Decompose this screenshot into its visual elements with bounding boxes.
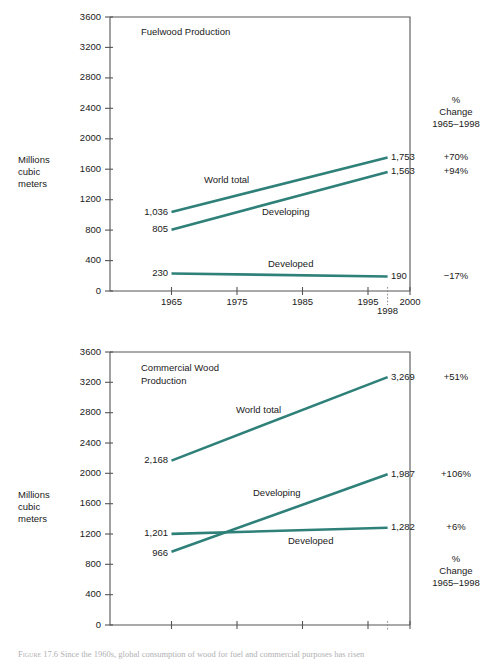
series-line-developed bbox=[172, 274, 388, 277]
chart-panel-commercial-wood: 0 400 800 1200 1600 2000 2400 2800 3200 … bbox=[0, 330, 498, 630]
y-tick-label: 2800 bbox=[80, 71, 101, 82]
y-tick-label: 1600 bbox=[80, 497, 101, 508]
value-label-end-developing: 1,563 bbox=[391, 165, 415, 176]
y-axis-ticks bbox=[105, 17, 113, 291]
change-value-world-total: +51% bbox=[444, 371, 469, 382]
x-tick-label: 1965 bbox=[161, 296, 182, 307]
change-header-line: Change bbox=[439, 106, 472, 117]
series-label-developed: Developed bbox=[268, 258, 313, 269]
y-axis-title-line: meters bbox=[18, 178, 47, 189]
y-tick-label: 1600 bbox=[80, 163, 101, 174]
x-tick-label: 1995 bbox=[357, 296, 378, 307]
change-column-fuelwood: % Change 1965–1998 +70% +94% −17% bbox=[432, 94, 480, 281]
series-inline-labels: World total Developing Developed bbox=[204, 174, 313, 269]
y-tick-label: 400 bbox=[85, 254, 101, 265]
y-tick-label: 2000 bbox=[80, 132, 101, 143]
y-tick-label: 400 bbox=[85, 588, 101, 599]
value-label-end-world-total: 3,269 bbox=[391, 371, 415, 382]
y-tick-label: 3600 bbox=[80, 11, 101, 22]
value-label-end-developed: 190 bbox=[391, 270, 407, 281]
change-header-line: Change bbox=[439, 565, 472, 576]
y-tick-label: 0 bbox=[96, 285, 101, 296]
series-line-developed bbox=[172, 528, 388, 534]
y-tick-label: 3200 bbox=[80, 41, 101, 52]
series-label-world-total: World total bbox=[236, 404, 281, 415]
figure-caption-text: Since the 1960s, global consumption of w… bbox=[60, 650, 364, 659]
change-value-developed: +6% bbox=[446, 521, 466, 532]
change-value-world-total: +70% bbox=[444, 151, 469, 162]
value-label-end-developed: 1,282 bbox=[391, 521, 415, 532]
plot-title-commercial-wood-line2: Production bbox=[141, 375, 186, 386]
y-tick-label: 2400 bbox=[80, 437, 101, 448]
y-axis-title-line: cubic bbox=[18, 501, 40, 512]
change-value-developing: +106% bbox=[441, 468, 471, 479]
fuelwood-chart-svg: 0 400 800 1200 1600 2000 2400 2800 3200 … bbox=[0, 0, 498, 330]
figure-root: 0 400 800 1200 1600 2000 2400 2800 3200 … bbox=[0, 0, 498, 664]
y-tick-label: 1200 bbox=[80, 193, 101, 204]
y-tick-label: 0 bbox=[96, 619, 101, 630]
figure-caption-number: Figure 17.6 bbox=[18, 650, 58, 659]
value-label-end-developing: 1,987 bbox=[391, 468, 415, 479]
x-tick-label: 2000 bbox=[399, 296, 420, 307]
y-axis-title-line: Millions bbox=[18, 154, 50, 165]
commercial-wood-chart-svg: 0 400 800 1200 1600 2000 2400 2800 3200 … bbox=[0, 330, 498, 630]
value-label-start-world-total: 2,168 bbox=[144, 454, 168, 465]
figure-caption: Figure 17.6 Since the 1960s, global cons… bbox=[18, 650, 488, 660]
y-tick-label: 2800 bbox=[80, 406, 101, 417]
change-header-line: % bbox=[452, 553, 461, 564]
y-tick-label: 1200 bbox=[80, 528, 101, 539]
y-axis-tick-labels: 0 400 800 1200 1600 2000 2400 2800 3200 … bbox=[80, 11, 101, 296]
value-label-start-world-total: 1,036 bbox=[144, 206, 168, 217]
value-label-start-developing: 966 bbox=[152, 547, 168, 558]
y-axis-title-line: cubic bbox=[18, 166, 40, 177]
series-label-developing: Developing bbox=[253, 487, 301, 498]
value-label-end-world-total: 1,753 bbox=[391, 151, 415, 162]
series-label-world-total: World total bbox=[204, 174, 249, 185]
y-axis-title-line: meters bbox=[18, 513, 47, 524]
series-line-world-total bbox=[172, 377, 388, 461]
marker-1998-label: 1998 bbox=[377, 305, 398, 316]
y-axis-title: Millions cubic meters bbox=[18, 154, 50, 189]
plot-frame bbox=[110, 17, 410, 291]
y-tick-label: 800 bbox=[85, 224, 101, 235]
y-tick-label: 2400 bbox=[80, 102, 101, 113]
series-line-developing bbox=[172, 474, 388, 551]
y-tick-label: 2000 bbox=[80, 467, 101, 478]
series-label-developing: Developing bbox=[262, 206, 310, 217]
value-label-start-developed: 1,201 bbox=[144, 527, 168, 538]
y-axis-title: Millions cubic meters bbox=[18, 489, 50, 524]
x-tick-label: 1985 bbox=[292, 296, 313, 307]
x-tick-label: 1975 bbox=[226, 296, 247, 307]
change-header-line: 1965–1998 bbox=[432, 577, 480, 588]
change-value-developing: +94% bbox=[444, 165, 469, 176]
y-tick-label: 3600 bbox=[80, 346, 101, 357]
y-axis-title-line: Millions bbox=[18, 489, 50, 500]
value-label-start-developed: 230 bbox=[152, 267, 168, 278]
change-header-line: 1965–1998 bbox=[432, 118, 480, 129]
y-tick-label: 800 bbox=[85, 558, 101, 569]
change-header-line: % bbox=[452, 94, 461, 105]
value-label-start-developing: 805 bbox=[152, 223, 168, 234]
plot-title-fuelwood: Fuelwood Production bbox=[141, 26, 230, 37]
change-column-commercial-wood: +51% +106% +6% % Change 1965–1998 bbox=[432, 371, 480, 588]
y-axis-ticks bbox=[105, 352, 113, 625]
change-value-developed: −17% bbox=[444, 270, 469, 281]
series-label-developed: Developed bbox=[288, 535, 333, 546]
chart-panel-fuelwood: 0 400 800 1200 1600 2000 2400 2800 3200 … bbox=[0, 0, 498, 330]
y-axis-tick-labels: 0 400 800 1200 1600 2000 2400 2800 3200 … bbox=[80, 346, 101, 630]
plot-title-commercial-wood: Commercial Wood bbox=[141, 362, 219, 373]
y-tick-label: 3200 bbox=[80, 376, 101, 387]
